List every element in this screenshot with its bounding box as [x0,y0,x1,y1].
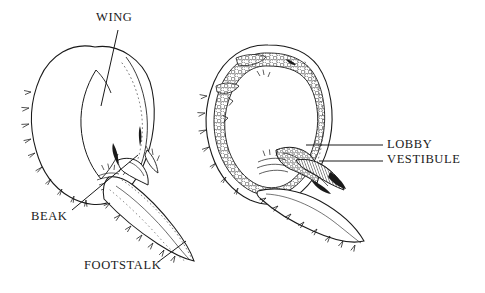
right-panel-section-view [197,45,364,252]
footstalk-shape [103,177,194,263]
label-wing: WING [96,11,132,24]
label-footstalk: FOOTSTALK [84,259,161,272]
left-panel-external-view [21,46,194,263]
label-vestibule: VESTIBULE [387,153,460,166]
figure-root: WING BEAK FOOTSTALK LOBBY VESTIBULE [0,0,485,293]
section-footstalk [257,189,364,252]
label-beak: BEAK [31,210,67,223]
label-lobby: LOBBY [387,138,432,151]
